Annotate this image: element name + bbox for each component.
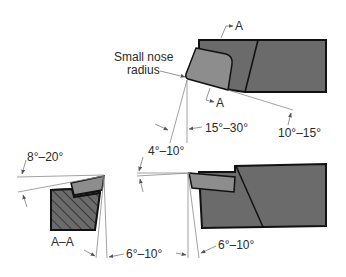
relief-arrow-left bbox=[84, 250, 95, 256]
rake-angle-arrow-bottom bbox=[23, 195, 27, 207]
nose-radius-label-line2: radius bbox=[127, 63, 160, 77]
back-rake-arrow-top bbox=[139, 157, 143, 171]
end-relief-arrow-left bbox=[176, 253, 186, 255]
nose-radius-label-line1: Small nose bbox=[114, 50, 174, 64]
section-arrow-top bbox=[221, 26, 233, 38]
ref-line-end-edge bbox=[170, 80, 187, 143]
side-relief-angle: 6°–10° bbox=[126, 247, 162, 261]
section-marker-bottom: A bbox=[216, 96, 224, 110]
section-marker-top: A bbox=[235, 19, 243, 33]
angle-arrow-end-edge bbox=[189, 127, 202, 129]
section-vertical-ref bbox=[104, 176, 107, 258]
tool-body-side bbox=[199, 164, 326, 228]
top-view: A A Small nose radius 15°–30° 10°–15° bbox=[114, 19, 326, 143]
relief-arrow-right bbox=[109, 254, 124, 257]
side-insert bbox=[189, 173, 235, 192]
section-arrow-bottom bbox=[206, 88, 214, 102]
section-horizontal-ref bbox=[17, 175, 104, 177]
section-label: A–A bbox=[51, 235, 74, 249]
end-relief-arrow-right bbox=[201, 246, 216, 253]
end-relief-angle: 6°–10° bbox=[218, 238, 254, 252]
cutting-insert-top bbox=[186, 48, 232, 90]
angle-arrow-left bbox=[155, 124, 168, 130]
side-view: 4°–10° 6°–10° bbox=[137, 144, 326, 258]
end-cutting-edge-angle: 15°–30° bbox=[205, 121, 248, 135]
side-rake-angle: 8°–20° bbox=[27, 150, 63, 164]
nose-radius-leader bbox=[160, 71, 185, 77]
section-view: 8°–20° 6°–10° A–A bbox=[17, 150, 162, 261]
back-rake-arrow-bottom bbox=[140, 179, 143, 192]
back-rake-angle: 4°–10° bbox=[148, 144, 184, 158]
rake-angle-arrow-top bbox=[22, 160, 26, 174]
back-rake-line bbox=[137, 173, 190, 176]
angle-arrow-side-edge bbox=[288, 113, 291, 125]
side-cutting-edge-angle: 10°–15° bbox=[278, 126, 321, 140]
cutting-tool-diagram: A A Small nose radius 15°–30° 10°–15° 8°… bbox=[0, 0, 346, 277]
